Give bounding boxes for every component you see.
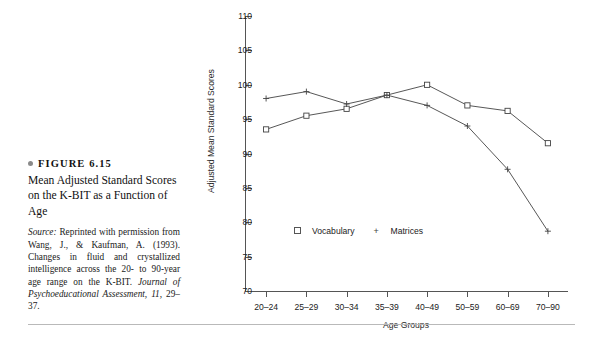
legend-label-matrices: Matrices xyxy=(391,226,423,236)
x-axis-tick xyxy=(548,291,549,297)
data-point-marker xyxy=(545,141,550,146)
figure-label-text: FIGURE 6.15 xyxy=(38,158,112,169)
figure-label: FIGURE 6.15 xyxy=(28,158,180,169)
x-axis-tick xyxy=(306,291,307,297)
bottom-divider xyxy=(28,324,575,325)
data-point-marker xyxy=(424,102,430,108)
y-axis-tick-label: 100 xyxy=(202,80,252,90)
open-square-icon xyxy=(292,227,303,236)
source-volume: 11, xyxy=(151,289,162,299)
y-axis-tick-label: 75 xyxy=(202,252,252,262)
data-point-marker xyxy=(303,89,309,95)
y-axis-tick-label: 95 xyxy=(202,114,252,124)
legend-label-vocabulary: Vocabulary xyxy=(312,226,355,236)
x-axis-title: Age Groups xyxy=(245,320,567,330)
data-point-marker xyxy=(465,103,470,108)
y-axis-tick-label: 85 xyxy=(202,183,252,193)
chart-legend: Vocabulary + Matrices xyxy=(292,226,423,236)
plus-icon: + xyxy=(371,227,382,236)
y-axis-tick-label: 70 xyxy=(202,286,252,296)
y-axis-tick-label: 110 xyxy=(202,11,252,21)
x-axis-tick xyxy=(347,291,348,297)
data-point-marker xyxy=(264,127,269,132)
bullet-dot-icon xyxy=(28,161,33,166)
x-axis-tick xyxy=(266,291,267,297)
legend-item-vocabulary: Vocabulary xyxy=(292,226,355,236)
plot-area: 70758085909510010511020–2425–2930–3435–3… xyxy=(245,16,568,292)
figure-source-note: Source: Reprinted with permission from W… xyxy=(28,226,180,313)
data-point-marker xyxy=(545,228,551,234)
x-axis-tick xyxy=(467,291,468,297)
figure-caption-block: FIGURE 6.15 Mean Adjusted Standard Score… xyxy=(28,158,180,313)
legend-item-matrices: + Matrices xyxy=(371,226,423,236)
data-point-marker xyxy=(304,113,309,118)
y-axis-tick-label: 90 xyxy=(202,149,252,159)
plot-series-svg xyxy=(246,16,568,291)
data-point-marker xyxy=(263,96,269,102)
data-point-marker xyxy=(425,82,430,87)
y-axis-tick-label: 80 xyxy=(202,217,252,227)
data-point-marker xyxy=(505,108,510,113)
figure-title: Mean Adjusted Standard Scores on the K-B… xyxy=(28,173,180,219)
x-axis-tick xyxy=(427,291,428,297)
x-axis-tick-label: 70–90 xyxy=(522,302,574,312)
source-label: Source: xyxy=(28,227,57,237)
y-axis-tick-label: 105 xyxy=(202,45,252,55)
x-axis-tick xyxy=(508,291,509,297)
x-axis-tick xyxy=(387,291,388,297)
line-chart: Adjusted Mean Standard Scores 7075808590… xyxy=(192,8,592,308)
